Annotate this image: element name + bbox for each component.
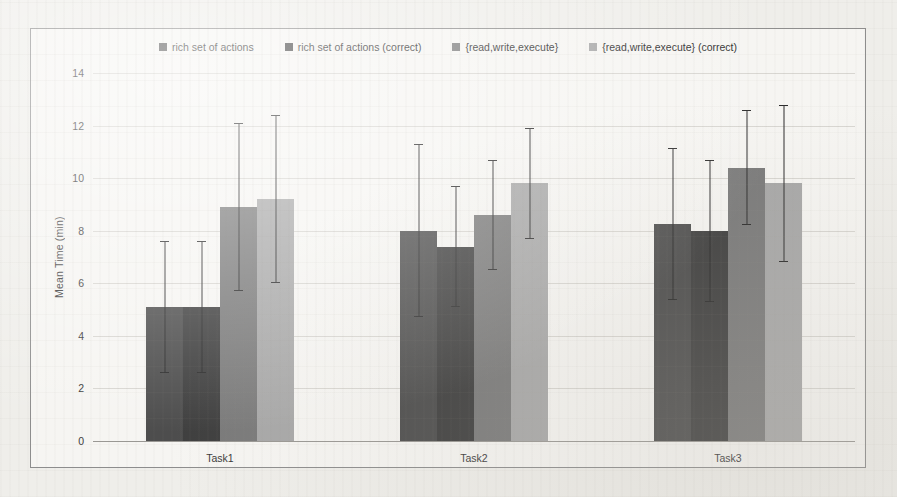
error-bar: [275, 115, 276, 283]
error-bar: [418, 144, 419, 317]
bar-slot: [474, 73, 511, 441]
error-bar: [164, 241, 165, 372]
x-tick-label: Task3: [601, 452, 855, 464]
bar-group-bars: [601, 73, 855, 441]
bar-groups: Task1Task2Task3: [93, 73, 855, 441]
bar-group: Task2: [347, 73, 601, 441]
legend-label-3: {read,write,execute} (correct): [602, 41, 737, 53]
y-tick-label: 8: [78, 225, 84, 237]
legend-swatch-icon-0: [159, 43, 167, 51]
bar-group: Task3: [601, 73, 855, 441]
y-tick-label: 4: [78, 330, 84, 342]
y-tick-label: 6: [78, 277, 84, 289]
x-tick-label: Task1: [93, 452, 347, 464]
plot-area: 02468101214 Task1Task2Task3: [93, 73, 855, 441]
error-bar: [455, 186, 456, 307]
error-bar: [529, 128, 530, 238]
chart-frame: rich set of actions rich set of actions …: [30, 28, 866, 468]
bar-slot: [220, 73, 257, 441]
y-axis-title: Mean Time (min): [53, 73, 65, 441]
legend-item-0: rich set of actions: [159, 41, 254, 53]
y-tick-label: 2: [78, 382, 84, 394]
legend-swatch-icon-2: [452, 43, 460, 51]
bar-slot: [654, 73, 691, 441]
error-bar: [238, 123, 239, 291]
y-tick-label: 0: [78, 435, 84, 447]
x-tick-label: Task2: [347, 452, 601, 464]
legend-item-1: rich set of actions (correct): [285, 41, 422, 53]
bar-group-bars: [93, 73, 347, 441]
x-axis-line: [93, 441, 855, 442]
bar-slot: [691, 73, 728, 441]
legend-label-0: rich set of actions: [172, 41, 254, 53]
bar-slot: [183, 73, 220, 441]
legend-item-3: {read,write,execute} (correct): [589, 41, 737, 53]
error-bar: [672, 148, 673, 300]
error-bar: [783, 105, 784, 263]
bar-slot: [146, 73, 183, 441]
legend-swatch-icon-1: [285, 43, 293, 51]
bar-slot: [765, 73, 802, 441]
bar-slot: [257, 73, 294, 441]
bar-group: Task1: [93, 73, 347, 441]
y-tick-label: 12: [72, 120, 84, 132]
error-bar: [709, 160, 710, 302]
legend-label-2: {read,write,execute}: [465, 41, 558, 53]
y-tick-label: 10: [72, 172, 84, 184]
error-bar: [201, 241, 202, 372]
error-bar: [492, 160, 493, 270]
bar-slot: [437, 73, 474, 441]
legend-item-2: {read,write,execute}: [452, 41, 558, 53]
error-bar: [746, 110, 747, 226]
bar-slot: [511, 73, 548, 441]
legend-label-1: rich set of actions (correct): [298, 41, 422, 53]
bar-group-bars: [347, 73, 601, 441]
chart-legend: rich set of actions rich set of actions …: [31, 41, 865, 53]
y-tick-label: 14: [72, 67, 84, 79]
bar-slot: [728, 73, 765, 441]
legend-swatch-icon-3: [589, 43, 597, 51]
bar-slot: [400, 73, 437, 441]
